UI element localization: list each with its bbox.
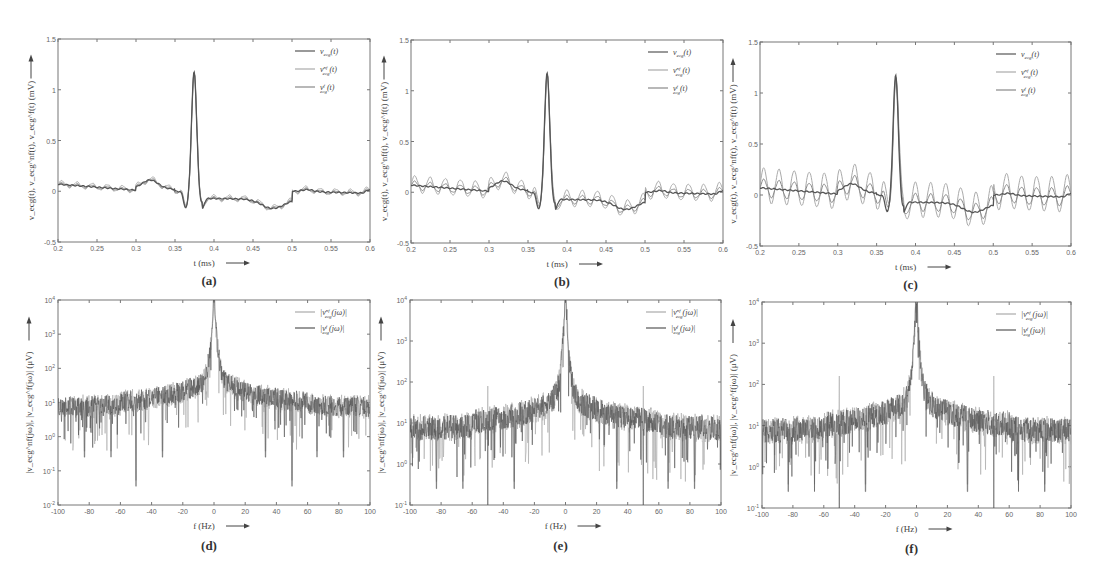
x-tick-label: 0.3 [131, 245, 141, 252]
arrow-right-icon [244, 524, 250, 529]
legend: |vnfecg(jω)||vfecg(jω)| [996, 310, 1048, 337]
y-tick-label: 104 [396, 295, 407, 304]
panel-caption: (a) [201, 273, 216, 288]
x-tick-label: 0.35 [521, 246, 535, 253]
y-tick-label: 103 [44, 329, 55, 338]
y-tick-label: 0 [754, 192, 758, 199]
x-tick-label: 0.2 [406, 246, 416, 253]
y-tick-label: 100 [396, 459, 407, 468]
panel-caption: (d) [201, 538, 217, 553]
x-tick-label: -40 [498, 508, 508, 515]
y-axis-label: v_ecg(t), v_ecg^nf(t), v_ecg^f(t) (mV) [379, 82, 389, 222]
y-axis-label: |v_ecg^nf(jω)|, |v_ecg^f(jω)| (μV) [728, 354, 738, 476]
y-axis-label: |v_ecg^nf(jω)|, |v_ecg^f(jω)| (μV) [376, 351, 386, 473]
x-tick-label: -40 [850, 511, 860, 518]
arrow-right-icon [947, 527, 953, 532]
y-tick-label: -0.5 [746, 243, 758, 250]
arrow-up-icon [731, 58, 736, 65]
legend: vecg(t)vnfecg(t)vfecg(t) [996, 50, 1039, 97]
panel-caption: (f) [905, 541, 918, 556]
y-tick-label: 101 [748, 421, 759, 430]
x-axis-label: t (ms) [895, 262, 916, 272]
x-tick-label: -80 [84, 508, 94, 515]
y-tick-label: 0 [52, 188, 56, 195]
legend: |vnfecg(jω)||vfecg(jω)| [295, 308, 347, 335]
y-axis-label: v_ecg(t), v_ecg^nf(t), v_ecg^f(t) (mV) [728, 84, 738, 224]
x-tick-label: 0.45 [948, 249, 962, 256]
x-tick-label: 0.5 [287, 245, 297, 252]
x-tick-label: 0.6 [1066, 249, 1076, 256]
legend: |vnfecg(jω)||vfecg(jω)| [646, 308, 698, 335]
arrow-up-icon [382, 56, 387, 63]
x-tick-label: -80 [788, 511, 798, 518]
chart-panel-e: -100-80-60-40-2002040608010010-110010110… [376, 277, 727, 554]
legend-label: |vnfecg(jω)| [320, 308, 347, 319]
x-tick-label: 0.55 [677, 246, 691, 253]
x-tick-label: 0.5 [988, 249, 998, 256]
x-tick-label: 40 [974, 511, 982, 518]
legend-label: vecg(t) [1021, 50, 1039, 60]
x-tick-label: 100 [715, 508, 727, 515]
arrow-up-icon [29, 55, 34, 62]
chart-panel-c: 0.20.250.30.350.40.450.50.550.6-0.500.51… [728, 39, 1076, 292]
legend-label: vnfecg(t) [1021, 68, 1038, 79]
x-tick-label: 0.6 [365, 245, 375, 252]
legend-label: |vnfecg(jω)| [671, 308, 698, 319]
x-tick-label: 60 [304, 508, 312, 515]
x-tick-label: 20 [241, 508, 249, 515]
x-tick-label: -100 [51, 508, 65, 515]
x-tick-label: -100 [403, 508, 417, 515]
x-tick-label: 0.4 [209, 245, 219, 252]
y-tick-label: 100 [44, 432, 55, 441]
x-tick-label: 0.6 [718, 246, 728, 253]
x-tick-label: -100 [755, 511, 769, 518]
legend-label: vecg(t) [673, 48, 691, 58]
x-tick-label: 80 [1036, 511, 1044, 518]
y-tick-label: 103 [748, 338, 759, 347]
y-tick-label: -0.5 [44, 239, 56, 246]
legend: vecg(t)vnfecg(t)vfecg(t) [648, 48, 691, 95]
arrow-right-icon [596, 524, 602, 529]
x-tick-label: 0.5 [640, 246, 650, 253]
y-tick-label: 100 [748, 462, 759, 471]
y-tick-label: 1 [405, 88, 409, 95]
y-tick-label: 1 [52, 87, 56, 94]
y-tick-label: 102 [396, 377, 407, 386]
x-tick-label: 40 [624, 508, 632, 515]
y-tick-label: 104 [44, 295, 55, 304]
chart-panel-a: 0.20.250.30.350.40.450.50.550.6-0.500.51… [26, 36, 375, 288]
figure: 0.20.250.30.350.40.450.50.550.6-0.500.51… [0, 0, 1102, 584]
x-tick-label: -60 [467, 508, 477, 515]
legend-label: |vfecg(jω)| [320, 324, 345, 335]
x-tick-label: 80 [335, 508, 343, 515]
y-tick-label: 101 [396, 418, 407, 427]
x-tick-label: -80 [436, 508, 446, 515]
legend-label: |vfecg(jω)| [1021, 326, 1046, 337]
x-tick-label: -20 [529, 508, 539, 515]
arrow-up-icon [731, 319, 736, 326]
x-tick-label: 100 [364, 508, 376, 515]
x-tick-label: 0.3 [833, 249, 843, 256]
y-axis-label: v_ecg(t), v_ecg^nf(t), v_ecg^f(t) (mV) [26, 81, 36, 221]
y-tick-label: 1 [754, 90, 758, 97]
panel-caption: (b) [554, 274, 570, 289]
series-noisy-line [411, 74, 723, 215]
arrow-up-icon [27, 317, 32, 324]
chart-panel-d: -100-80-60-40-2002040608010010-210-11001… [24, 282, 376, 553]
x-tick-label: -20 [881, 511, 891, 518]
x-tick-label: -20 [178, 508, 188, 515]
x-axis-label: f (Hz) [193, 521, 215, 531]
arrow-up-icon [379, 317, 384, 324]
y-tick-label: 104 [748, 297, 759, 306]
panel-caption: (c) [903, 277, 917, 292]
legend: vecg(t)vnfecg(t)vfecg(t) [295, 47, 338, 94]
x-tick-label: 0 [915, 511, 919, 518]
y-tick-label: 102 [748, 379, 759, 388]
y-tick-label: 10-1 [43, 466, 55, 475]
y-tick-label: 102 [44, 363, 55, 372]
x-tick-label: 0.45 [246, 245, 260, 252]
x-tick-label: 0.25 [792, 249, 806, 256]
x-tick-label: 20 [944, 511, 952, 518]
series-noisy-line [760, 77, 1071, 225]
x-tick-label: 0.55 [324, 245, 338, 252]
